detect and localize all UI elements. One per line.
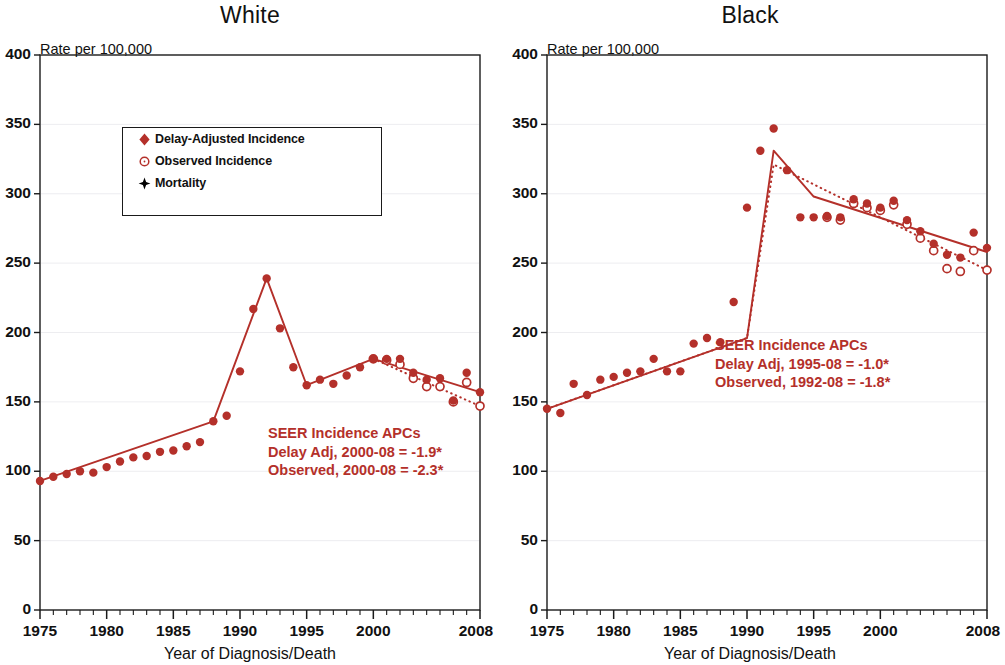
- annotation-white-line2: Delay Adj, 2000-08 = -1.9*: [268, 443, 443, 462]
- legend-item-observed: Observed Incidence: [123, 150, 381, 172]
- x-tick-label: 1975: [14, 622, 66, 640]
- x-tick-label: 2000: [347, 622, 399, 640]
- legend-label-delay-adjusted: Delay-Adjusted Incidence: [155, 132, 305, 146]
- x-tick-label: 1980: [588, 622, 640, 640]
- annotation-black-line1: SEER Incidence APCs: [715, 336, 890, 355]
- x-tick-label: 1995: [788, 622, 840, 640]
- y-tick-label: 200: [5, 323, 31, 341]
- y-tick-label: 300: [512, 184, 538, 202]
- x-tick-label: 1990: [721, 622, 773, 640]
- y-tick-label: 0: [22, 600, 31, 618]
- annotation-white-line3: Observed, 2000-08 = -2.3*: [268, 461, 443, 480]
- plot-area-black: [500, 0, 1000, 665]
- x-tick-label: 1985: [147, 622, 199, 640]
- x-tick-label: 1980: [81, 622, 133, 640]
- x-tick-label: 1975: [521, 622, 573, 640]
- annotation-white: SEER Incidence APCs Delay Adj, 2000-08 =…: [268, 424, 443, 480]
- y-tick-label: 350: [512, 114, 538, 132]
- x-tick-label: 1985: [654, 622, 706, 640]
- legend-white: Delay-Adjusted Incidence Observed Incide…: [122, 127, 382, 216]
- legend-item-mortality: Mortality: [123, 172, 381, 194]
- x-axis-caption-black: Year of Diagnosis/Death: [500, 645, 1000, 663]
- plot-area-white: [0, 0, 500, 665]
- x-tick-label: 2008: [957, 622, 1005, 640]
- y-tick-label: 50: [14, 531, 31, 549]
- x-tick-label: 1995: [281, 622, 333, 640]
- chart-panel-black: Black Rate per 100,000 05010015020025030…: [500, 0, 1000, 665]
- y-tick-label: 150: [512, 392, 538, 410]
- legend-item-delay-adjusted: Delay-Adjusted Incidence: [123, 128, 381, 150]
- filled-diamond-icon: [133, 129, 155, 149]
- y-tick-label: 150: [5, 392, 31, 410]
- open-circle-icon: [133, 151, 155, 171]
- y-tick-label: 200: [512, 323, 538, 341]
- y-tick-label: 0: [529, 600, 538, 618]
- y-tick-label: 400: [512, 45, 538, 63]
- y-tick-label: 350: [5, 114, 31, 132]
- filled-diamond-black-icon: [133, 173, 155, 193]
- y-tick-label: 100: [5, 461, 31, 479]
- annotation-black: SEER Incidence APCs Delay Adj, 1995-08 =…: [715, 336, 890, 392]
- annotation-black-line3: Observed, 1992-08 = -1.8*: [715, 373, 890, 392]
- legend-label-observed: Observed Incidence: [155, 154, 272, 168]
- x-tick-label: 2008: [450, 622, 502, 640]
- y-tick-label: 300: [5, 184, 31, 202]
- x-axis-caption-white: Year of Diagnosis/Death: [0, 645, 500, 663]
- legend-label-mortality: Mortality: [155, 176, 206, 190]
- annotation-black-line2: Delay Adj, 1995-08 = -1.0*: [715, 355, 890, 374]
- annotation-white-line1: SEER Incidence APCs: [268, 424, 443, 443]
- y-tick-label: 400: [5, 45, 31, 63]
- x-tick-label: 1990: [214, 622, 266, 640]
- y-tick-label: 250: [512, 253, 538, 271]
- chart-panel-white: White Rate per 100,000 05010015020025030…: [0, 0, 500, 665]
- x-tick-label: 2000: [854, 622, 906, 640]
- y-tick-label: 100: [512, 461, 538, 479]
- y-tick-label: 250: [5, 253, 31, 271]
- y-tick-label: 50: [521, 531, 538, 549]
